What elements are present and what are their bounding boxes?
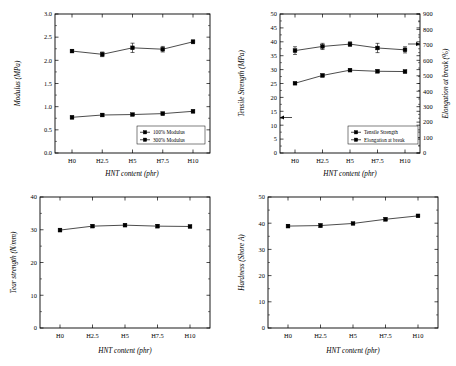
axis-pointer-arrowhead-left (280, 116, 284, 120)
data-point-marker (188, 225, 192, 229)
panel-tensile-elongation: 05101520253035404550 0100200300400500600… (228, 0, 456, 183)
data-point-marker (293, 49, 297, 53)
y-tick-label: 0 (274, 149, 277, 156)
y-tick-label: 45 (271, 24, 277, 31)
y-tick-label: 10 (31, 292, 37, 299)
y-tick-label: 20 (271, 94, 277, 101)
y2-tick-label: 700 (423, 41, 433, 48)
legend-modulus[interactable]: 100% Modulus300% Modulus (137, 126, 205, 144)
x-tick-label: H7.5 (379, 332, 392, 339)
y-tick-label: 0.5 (44, 126, 52, 133)
data-point-marker (100, 52, 104, 56)
data-series-modulus (70, 40, 195, 119)
data-point-marker (321, 74, 325, 78)
x-axis-ticks-tear: H0H2.5H5H7.5H10 (56, 197, 195, 339)
y-tick-label: 5 (274, 135, 277, 142)
x-tick-label: H5 (346, 157, 354, 164)
y-axis-ticks-hardness: 01020304050 (259, 193, 438, 331)
panel-modulus: 0.00.51.01.52.02.53.0 H0H2.5H5H7.5H10 Mo… (0, 0, 228, 183)
x-axis-title-hardness: HNT content (phr) (325, 347, 380, 355)
y-axis-title-modulus: Modulus (MPa) (14, 60, 22, 107)
x-tick-label: H7.5 (371, 157, 384, 164)
x-axis-title-modulus: HNT content (phr) (104, 170, 159, 178)
data-point-marker (403, 48, 407, 52)
x-axis-title-tear: HNT content (phr) (97, 347, 152, 355)
y-axis-title-tensile: Tensile Strength (MPa) (238, 50, 246, 117)
y-tick-label: 50 (271, 10, 277, 17)
figure-container: 0.00.51.01.52.02.53.0 H0H2.5H5H7.5H10 Mo… (0, 0, 456, 366)
y-tick-label: 1.0 (44, 103, 52, 110)
legend-marker (354, 138, 357, 141)
x-tick-label: H0 (284, 332, 292, 339)
data-series-hardness (286, 214, 420, 228)
tear-strength-chart: 010203040 H0H2.5H5H7.5H10 Tear strength … (0, 183, 228, 366)
x-tick-label: H10 (184, 332, 195, 339)
x-tick-label: H2.5 (314, 332, 327, 339)
y-tick-label: 40 (31, 193, 37, 200)
y-axis-title-hardness: Hardness (Shore A) (238, 234, 246, 292)
y-tick-label: 35 (271, 52, 277, 59)
x-tick-label: H2.5 (316, 157, 329, 164)
x-tick-label: H0 (56, 332, 64, 339)
axis-pointer-arrowhead-right (416, 42, 420, 46)
data-series-tensile (280, 42, 420, 120)
x-axis-ticks-hardness: H0H2.5H5H7.5H10 (284, 197, 423, 339)
y-tick-label: 10 (271, 122, 277, 129)
x-tick-label: H10 (187, 157, 198, 164)
legend-marker (354, 131, 357, 134)
legend-label: Tensile Strength (364, 129, 398, 135)
x-tick-label: H2.5 (86, 332, 99, 339)
y-tick-label: 50 (259, 193, 265, 200)
x-tick-label: H5 (349, 332, 357, 339)
y2-tick-label: 400 (423, 88, 433, 95)
data-point-marker (191, 40, 195, 44)
data-series-tear (58, 223, 192, 232)
y2-tick-label: 200 (423, 118, 433, 125)
y-tick-label: 15 (271, 108, 277, 115)
y2-tick-label: 900 (423, 10, 433, 17)
y-tick-label: 1.5 (44, 80, 52, 87)
legend-label: 300% Modulus (153, 137, 185, 143)
y2-tick-label: 500 (423, 72, 433, 79)
y2-tick-label: 300 (423, 103, 433, 110)
y2-axis-ticks-elongation: 0100200300400500600700800900 (417, 10, 433, 156)
y2-axis-title-elongation: Elongation at break (%) (442, 48, 450, 119)
data-point-marker (100, 113, 104, 117)
data-point-marker (191, 109, 195, 113)
panel-hardness: 01020304050 H0H2.5H5H7.5H10 Hardness (Sh… (228, 183, 456, 366)
data-point-marker (351, 222, 355, 226)
data-point-marker (161, 47, 165, 51)
y-tick-label: 30 (31, 226, 37, 233)
legend-marker (143, 131, 146, 134)
data-point-marker (131, 113, 135, 117)
data-point-marker (321, 45, 325, 49)
tensile-elongation-chart: 05101520253035404550 0100200300400500600… (228, 0, 456, 183)
plot-frame-tear (40, 197, 210, 328)
data-point-marker (403, 70, 407, 74)
data-point-marker (70, 115, 74, 119)
data-point-marker (58, 228, 62, 232)
hardness-chart: 01020304050 H0H2.5H5H7.5H10 Hardness (Sh… (228, 183, 456, 366)
y-axis-ticks-tear: 010203040 (31, 193, 210, 331)
y-tick-label: 40 (259, 220, 265, 227)
data-point-marker (416, 214, 420, 218)
data-point-marker (286, 224, 290, 228)
y-tick-label: 3.0 (44, 10, 52, 17)
data-point-marker (156, 224, 160, 228)
data-point-marker (70, 49, 74, 53)
y-tick-label: 25 (271, 80, 277, 87)
x-tick-label: H7.5 (151, 332, 164, 339)
y-tick-label: 30 (259, 246, 265, 253)
x-tick-label: H0 (291, 157, 299, 164)
x-tick-label: H2.5 (96, 157, 109, 164)
data-point-marker (348, 42, 352, 46)
x-axis-title-tensile: HNT content (phr) (322, 170, 377, 178)
y-tick-label: 2.5 (44, 33, 52, 40)
modulus-chart: 0.00.51.01.52.02.53.0 H0H2.5H5H7.5H10 Mo… (0, 0, 228, 183)
y2-tick-label: 800 (423, 26, 433, 33)
data-point-marker (376, 46, 380, 50)
legend-marker (143, 138, 146, 141)
x-tick-label: H10 (412, 332, 423, 339)
data-point-marker (319, 224, 323, 228)
legend-tensile[interactable]: Tensile StrengthElongation at break (348, 126, 418, 144)
